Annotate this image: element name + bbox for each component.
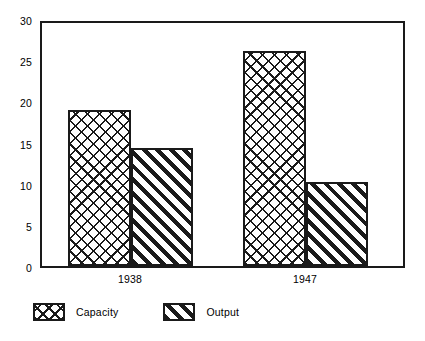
legend: Capacity Output [33,303,239,321]
legend-label-capacity: Capacity [76,307,118,318]
y-axis: 30 25 20 15 10 5 0 [0,0,40,341]
legend-swatch-output-icon [163,303,195,321]
y-tick-label-30: 30 [20,16,32,27]
bar-chart: 30 25 20 15 10 5 0 1938 1947 Capacity Ou… [0,0,425,341]
x-tick-label-1938: 1938 [118,274,142,285]
legend-spacer [118,312,163,313]
bar-output-1947 [306,182,368,266]
bar-output-1938 [131,148,193,266]
y-tick-label-25: 25 [20,57,32,68]
bar-capacity-1938 [68,110,131,266]
y-tick-label-10: 10 [20,180,32,191]
bar-capacity-1947 [243,51,306,266]
legend-label-output: Output [206,307,239,318]
y-tick-label-15: 15 [20,139,32,150]
legend-swatch-capacity-icon [33,303,65,321]
y-tick-label-20: 20 [20,98,32,109]
y-tick-label-5: 5 [26,222,32,233]
legend-entry-capacity: Capacity [33,303,118,321]
legend-entry-output: Output [163,303,239,321]
x-tick-label-1947: 1947 [293,274,317,285]
y-tick-label-0: 0 [26,263,32,274]
bars-layer [42,23,403,266]
